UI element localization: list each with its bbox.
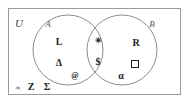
element-a-only-1: L	[56, 37, 63, 47]
element-intersection-1: ✳	[95, 37, 102, 45]
element-intersection-2: $	[96, 57, 101, 67]
set-b-label: B	[149, 20, 155, 29]
set-a-circle	[33, 15, 103, 85]
universal-set-label: U	[15, 18, 23, 29]
element-outside-3: Σ	[44, 82, 51, 92]
element-outside-2: Z	[28, 82, 35, 92]
element-a-only-3: @	[71, 72, 78, 80]
element-b-only-1: R	[132, 38, 139, 48]
element-b-only-3: α	[118, 71, 124, 81]
venn-diagram-canvas: U A B L Δ @ ✳ $ R α ∞ Z Σ	[0, 0, 191, 104]
element-a-only-2: Δ	[56, 58, 62, 68]
element-outside-1: ∞	[16, 85, 21, 92]
element-b-only-2-square-icon	[131, 60, 139, 68]
set-a-label: A	[45, 20, 51, 29]
